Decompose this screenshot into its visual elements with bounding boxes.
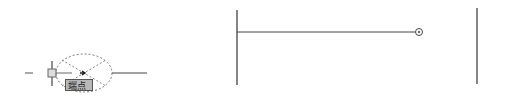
right-panel bbox=[237, 8, 477, 85]
snap-tooltip: 端点 bbox=[65, 79, 93, 91]
cursor-cross-icon bbox=[80, 71, 85, 75]
endpoint-dot-icon bbox=[418, 31, 420, 33]
snap-square-icon bbox=[48, 69, 56, 77]
